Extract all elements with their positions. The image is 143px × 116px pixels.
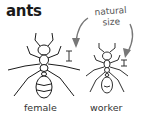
ant-illustration (0, 0, 143, 116)
worker-scale-bar-icon (121, 60, 127, 66)
female-scale-bar-icon (66, 51, 72, 61)
arrow-to-female-scale-icon (72, 18, 88, 48)
worker-ant-icon (86, 43, 128, 93)
worker-label: worker (90, 102, 122, 113)
arrow-to-worker-scale-icon (123, 24, 133, 58)
female-ant-icon (8, 33, 80, 98)
female-label: female (24, 102, 57, 113)
